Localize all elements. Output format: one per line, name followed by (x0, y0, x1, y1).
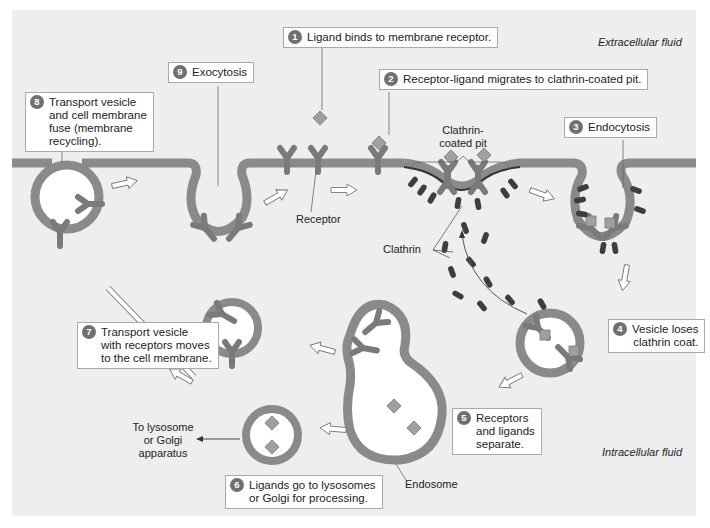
step-4-label: 4 Vesicle loses clathrin coat. (608, 319, 705, 353)
step-8-text: Transport vesicle and cell membrane fuse… (49, 96, 147, 148)
step-1-text: Ligand binds to membrane receptor. (307, 31, 491, 44)
step-8-label: 8 Transport vesicle and cell membrane fu… (25, 92, 154, 152)
step-4-text: Vesicle loses clathrin coat. (632, 323, 698, 349)
step-9-label: 9 Exocytosis (168, 62, 254, 83)
step-6-label: 6 Ligands go to lysosomes or Golgi for p… (225, 475, 383, 509)
step-4-badge: 4 (613, 322, 627, 336)
step-9-text: Exocytosis (192, 66, 247, 79)
clathrin-label: Clathrin (383, 243, 421, 256)
intracellular-label: Intracellular fluid (602, 446, 682, 459)
clathrin-pit-label: Clathrin- coated pit (432, 124, 494, 150)
step-7-badge: 7 (82, 325, 96, 339)
ligand-vesicle (246, 409, 298, 461)
step-1-badge: 1 (288, 30, 302, 44)
step-3-text: Endocytosis (588, 121, 650, 134)
step-6-badge: 6 (230, 478, 244, 492)
step-2-badge: 2 (384, 72, 398, 86)
step-3-label: 3 Endocytosis (564, 117, 657, 138)
step-2-label: 2 Receptor-ligand migrates to clathrin-c… (379, 69, 648, 90)
step-5-label: 5 Receptors and ligands separate. (452, 408, 542, 455)
step-7-text: Transport vesicle with receptors moves t… (101, 326, 212, 365)
step-9-badge: 9 (173, 65, 187, 79)
extracellular-label: Extracellular fluid (598, 36, 682, 49)
lysosome-golgi-label: To lysosome or Golgi apparatus (130, 421, 196, 460)
step-5-badge: 5 (457, 411, 471, 425)
step-2-text: Receptor-ligand migrates to clathrin-coa… (403, 73, 641, 86)
step-6-text: Ligands go to lysosomes or Golgi for pro… (249, 479, 376, 505)
endosome-label: Endosome (405, 478, 458, 491)
step-8-badge: 8 (30, 95, 44, 109)
step-3-badge: 3 (569, 120, 583, 134)
step-5-text: Receptors and ligands separate. (476, 412, 535, 451)
diagram-canvas: Extracellular fluid Intracellular fluid … (0, 0, 710, 528)
receptor-label: Receptor (296, 213, 341, 226)
step-1-label: 1 Ligand binds to membrane receptor. (283, 27, 498, 48)
step-7-label: 7 Transport vesicle with receptors moves… (77, 322, 219, 369)
